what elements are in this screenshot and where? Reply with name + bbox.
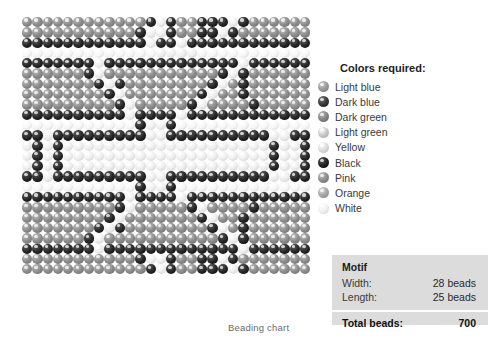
bead <box>84 120 94 130</box>
bead <box>104 110 114 120</box>
bead <box>146 89 156 99</box>
bead <box>43 110 53 120</box>
bead <box>63 254 73 264</box>
bead <box>104 99 114 109</box>
bead <box>218 233 228 243</box>
bead <box>218 99 228 109</box>
legend-title: Colors required: <box>340 62 488 74</box>
bead <box>207 27 217 37</box>
bead <box>218 89 228 99</box>
bead <box>73 244 83 254</box>
bead <box>290 192 300 202</box>
bead <box>125 38 135 48</box>
bead <box>22 171 32 181</box>
bead <box>156 130 166 140</box>
bead <box>187 264 197 274</box>
bead <box>290 161 300 171</box>
bead <box>22 79 32 89</box>
bead <box>125 79 135 89</box>
bead <box>300 58 310 68</box>
bead <box>218 151 228 161</box>
bead <box>84 161 94 171</box>
bead <box>104 223 114 233</box>
bead <box>94 244 104 254</box>
motif-width-row: Width: 28 beads <box>342 276 476 290</box>
bead <box>146 130 156 140</box>
bead <box>300 254 310 264</box>
bead <box>197 110 207 120</box>
bead <box>135 120 145 130</box>
bead <box>73 38 83 48</box>
bead <box>84 68 94 78</box>
bead <box>146 48 156 58</box>
bead <box>269 233 279 243</box>
bead <box>197 120 207 130</box>
bead <box>228 17 238 27</box>
legend-bead-icon <box>318 96 329 107</box>
bead <box>207 120 217 130</box>
bead <box>269 68 279 78</box>
bead <box>146 151 156 161</box>
bead <box>269 264 279 274</box>
bead <box>22 141 32 151</box>
bead <box>135 141 145 151</box>
bead <box>32 89 42 99</box>
bead <box>115 110 125 120</box>
bead <box>125 120 135 130</box>
legend-bead-icon <box>318 142 329 153</box>
bead <box>238 99 248 109</box>
bead <box>238 264 248 274</box>
bead <box>238 161 248 171</box>
bead <box>125 192 135 202</box>
bead <box>166 213 176 223</box>
bead <box>135 27 145 37</box>
bead <box>259 68 269 78</box>
bead <box>73 79 83 89</box>
bead <box>94 223 104 233</box>
bead <box>146 213 156 223</box>
bead <box>238 17 248 27</box>
bead <box>125 110 135 120</box>
bead <box>156 213 166 223</box>
bead <box>94 68 104 78</box>
bead <box>207 192 217 202</box>
bead <box>166 223 176 233</box>
bead <box>228 89 238 99</box>
motif-length-row: Length: 25 beads <box>342 290 476 304</box>
bead <box>197 223 207 233</box>
bead <box>73 17 83 27</box>
bead <box>135 192 145 202</box>
bead <box>135 161 145 171</box>
bead <box>94 141 104 151</box>
bead <box>228 202 238 212</box>
bead <box>156 38 166 48</box>
bead <box>228 233 238 243</box>
bead <box>269 254 279 264</box>
bead <box>125 89 135 99</box>
bead <box>22 120 32 130</box>
bead <box>156 17 166 27</box>
bead <box>43 141 53 151</box>
bead <box>115 223 125 233</box>
bead <box>63 79 73 89</box>
legend-item-label: Light blue <box>335 81 381 93</box>
bead <box>125 48 135 58</box>
bead <box>166 79 176 89</box>
bead <box>22 161 32 171</box>
bead <box>228 130 238 140</box>
bead <box>146 223 156 233</box>
bead <box>22 48 32 58</box>
bead <box>228 182 238 192</box>
legend-bead-icon <box>318 127 329 138</box>
bead <box>73 213 83 223</box>
bead <box>43 38 53 48</box>
bead <box>187 27 197 37</box>
bead <box>176 120 186 130</box>
bead <box>135 99 145 109</box>
bead <box>104 233 114 243</box>
bead <box>207 58 217 68</box>
bead <box>238 244 248 254</box>
bead <box>279 130 289 140</box>
bead <box>32 223 42 233</box>
bead <box>125 99 135 109</box>
